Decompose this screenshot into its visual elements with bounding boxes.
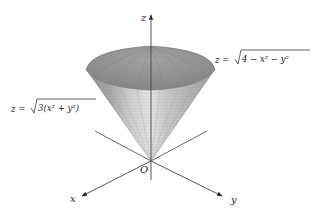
cone-equation-radicand: 3(x² + y²) [38,103,79,113]
sphere-equation-lhs: z = [214,55,229,65]
cone-sphere-diagram: z x y O z = 4 − x² − y² z = 3(x² + y²) [0,0,316,217]
y-axis-label: y [230,194,237,205]
x-axis-label: x [70,193,76,204]
cone-equation-lhs: z = [10,104,25,114]
cone-equation: z = 3(x² + y²) [10,99,96,114]
sphere-equation: z = 4 − x² − y² [214,50,310,65]
origin-label: O [140,164,148,175]
sphere-equation-radicand: 4 − x² − y² [241,54,289,64]
y-axis [151,161,222,196]
z-axis-label: z [140,12,147,23]
